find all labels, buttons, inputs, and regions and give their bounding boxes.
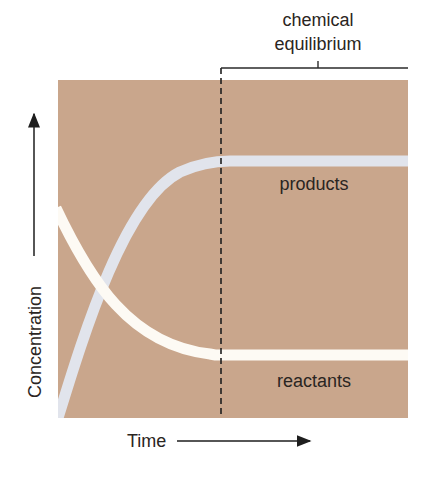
equilibrium-chart: chemical equilibrium products reactants …: [0, 0, 443, 482]
annotation-chemical: chemical: [282, 10, 353, 30]
plot-area: [58, 80, 408, 418]
products-label: products: [279, 174, 348, 194]
reactants-label: reactants: [277, 371, 351, 391]
equilibrium-bracket: [221, 61, 408, 68]
y-axis-label: Concentration: [25, 286, 45, 398]
annotation-equilibrium: equilibrium: [274, 34, 361, 54]
x-axis-label: Time: [127, 431, 166, 451]
